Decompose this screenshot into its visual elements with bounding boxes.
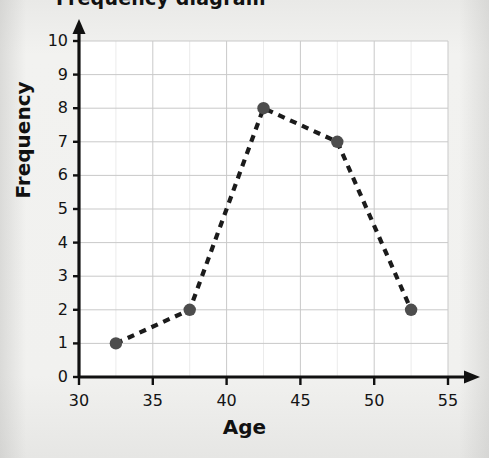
x-axis-arrowhead [464, 371, 480, 384]
y-axis-tick-label: 6 [30, 167, 68, 183]
data-point-marker [331, 136, 343, 148]
y-axis-tick-label: 2 [30, 302, 68, 318]
y-axis-tick-label: 10 [30, 33, 68, 49]
chart-title-clipped: Frequency diagram [56, 0, 316, 9]
y-axis-tick-label: 0 [30, 369, 68, 385]
chart-title: Frequency diagram [56, 0, 316, 9]
data-point-marker [257, 102, 269, 114]
x-axis-tick-label: 35 [143, 393, 163, 409]
y-axis-tick-label: 7 [30, 134, 68, 150]
y-axis-tick-label: 4 [30, 235, 68, 251]
data-point-marker [110, 337, 122, 349]
y-axis-tick-label: 5 [30, 201, 68, 217]
data-point-marker [184, 304, 196, 316]
x-axis-title: Age [0, 415, 489, 439]
x-axis-tick-label: 30 [69, 393, 89, 409]
plot-area [79, 41, 448, 377]
frequency-polygon-series [79, 41, 448, 377]
y-axis-title: Frequency [11, 55, 35, 225]
y-axis-tick-label: 1 [30, 335, 68, 351]
x-axis-tick-label: 50 [364, 393, 384, 409]
y-axis-tick-label: 3 [30, 268, 68, 284]
chart-page: Frequency diagram 012345678910 303540455… [0, 0, 489, 458]
series-line [116, 108, 411, 343]
y-axis-arrowhead [73, 19, 86, 34]
x-axis-tick-label: 55 [438, 393, 458, 409]
y-axis-tick-label: 8 [30, 100, 68, 116]
x-axis-tick-label: 45 [290, 393, 310, 409]
y-axis-tick-label: 9 [30, 67, 68, 83]
data-point-marker [405, 304, 417, 316]
x-axis-tick-label: 40 [216, 393, 236, 409]
